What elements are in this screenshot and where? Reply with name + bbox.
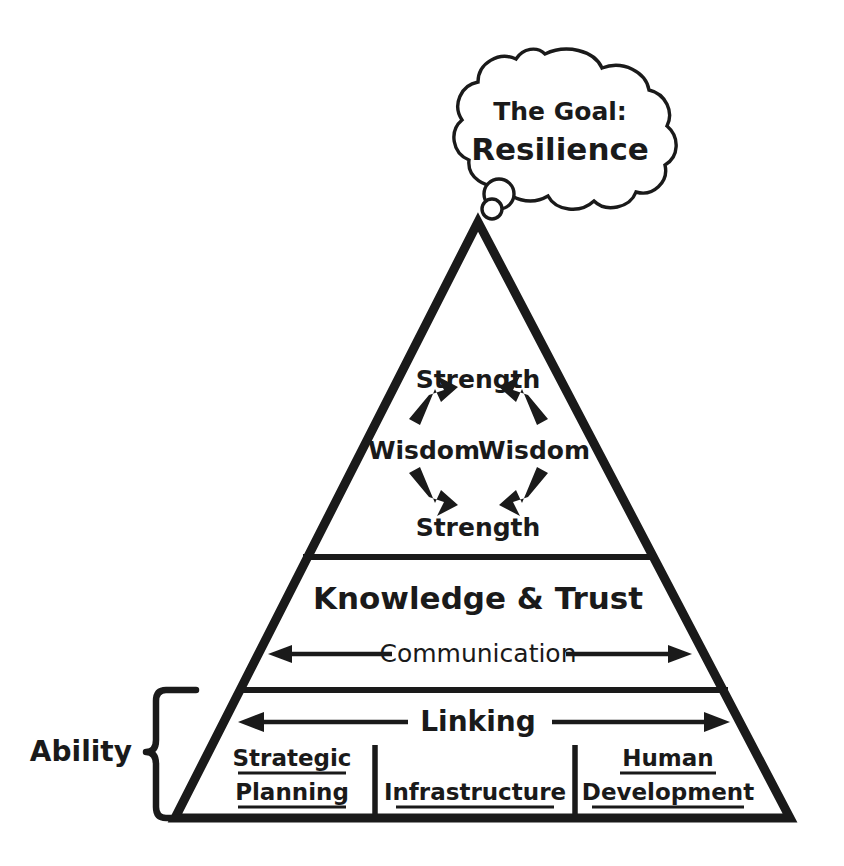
resilience-pyramid-diagram: The Goal: Resilience Strength Wisdom Wis… bbox=[0, 0, 844, 866]
middle-tier-title: Knowledge & Trust bbox=[313, 580, 643, 616]
diagram-canvas: The Goal: Resilience Strength Wisdom Wis… bbox=[0, 0, 844, 866]
goal-label-line2: Resilience bbox=[471, 131, 649, 167]
cycle-label-wisdom-left: Wisdom bbox=[368, 436, 480, 465]
cycle-label-strength-top: Strength bbox=[416, 365, 541, 394]
goal-thought-bubble: The Goal: Resilience bbox=[454, 49, 676, 219]
goal-label-line1: The Goal: bbox=[493, 97, 627, 126]
thought-bubble-small bbox=[482, 199, 502, 219]
ability-brace-group: Ability bbox=[30, 690, 196, 818]
cycle-label-wisdom-right: Wisdom bbox=[478, 436, 590, 465]
strategic-planning-line1: Strategic bbox=[233, 745, 352, 771]
linking-label: Linking bbox=[420, 705, 536, 738]
communication-label: Communication bbox=[379, 639, 576, 668]
infrastructure-line1: Infrastructure bbox=[384, 779, 566, 805]
ability-label: Ability bbox=[30, 735, 132, 768]
human-development-line2: Development bbox=[582, 779, 754, 805]
cycle-label-strength-bottom: Strength bbox=[416, 513, 541, 542]
base-column-infrastructure: Infrastructure bbox=[384, 779, 566, 808]
human-development-line1: Human bbox=[622, 745, 713, 771]
strategic-planning-line2: Planning bbox=[235, 779, 349, 805]
